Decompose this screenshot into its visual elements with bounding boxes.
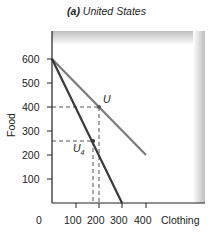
frame-right-shade bbox=[193, 31, 205, 203]
y-tick-500: 500 bbox=[22, 77, 40, 89]
y-ticks bbox=[47, 59, 52, 179]
point-u4 bbox=[91, 139, 95, 143]
x-tick-0: 0 bbox=[36, 214, 42, 226]
x-tick-400: 400 bbox=[134, 214, 152, 226]
y-tick-600: 600 bbox=[22, 53, 40, 65]
x-ticks bbox=[76, 203, 146, 208]
x-tick-200: 200 bbox=[87, 214, 105, 226]
y-tick-300: 300 bbox=[22, 125, 40, 137]
x-tick-100: 100 bbox=[64, 214, 82, 226]
x-tick-300: 300 bbox=[110, 214, 128, 226]
y-tick-400: 400 bbox=[22, 101, 40, 113]
y-tick-100: 100 bbox=[22, 173, 40, 185]
x-axis-label: Clothing bbox=[161, 214, 200, 226]
chart-plot bbox=[0, 0, 213, 232]
frame-top-shade bbox=[52, 31, 205, 45]
label-u: U bbox=[103, 93, 111, 105]
y-tick-200: 200 bbox=[22, 149, 40, 161]
y-axis-label: Food bbox=[5, 110, 17, 140]
label-u4: U4 bbox=[73, 142, 85, 156]
point-u bbox=[97, 105, 101, 109]
